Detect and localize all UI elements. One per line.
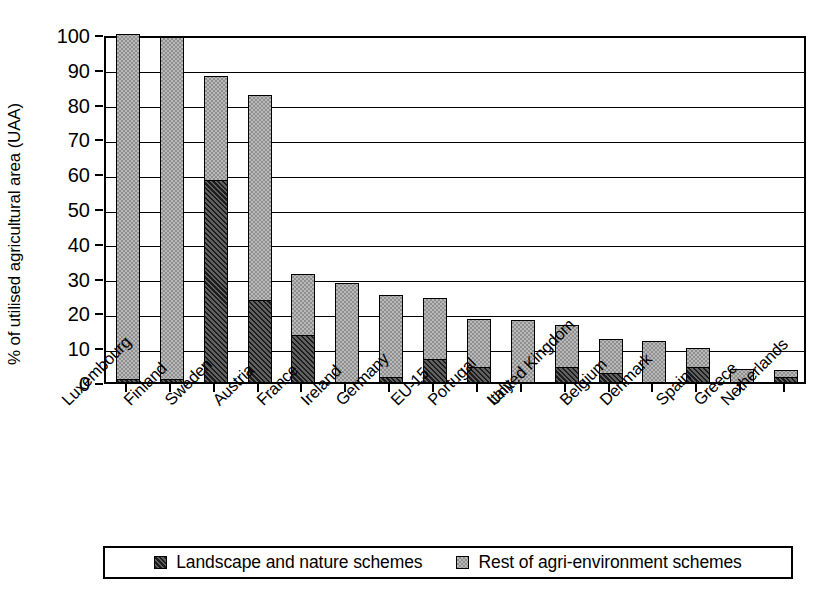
- bar-slot: [238, 38, 282, 382]
- y-axis-tick: [95, 105, 103, 107]
- plot-area: [104, 36, 806, 384]
- bar[interactable]: [335, 283, 359, 382]
- bar-slot: [325, 38, 369, 382]
- y-axis-tick-label: 90: [20, 61, 90, 81]
- bar-slot: [676, 38, 720, 382]
- x-axis-tick: [783, 384, 785, 392]
- legend-item[interactable]: Landscape and nature schemes: [154, 552, 422, 573]
- x-axis-tick: [651, 384, 653, 392]
- bar-segment-rest-of-agri-environment-schemes: [687, 348, 709, 367]
- y-axis-tick: [95, 35, 103, 37]
- y-axis-tick-label: 40: [20, 235, 90, 255]
- bar[interactable]: [423, 298, 447, 382]
- bar-slot: [369, 38, 413, 382]
- bar-segment-rest-of-agri-environment-schemes: [117, 34, 139, 379]
- bar-segment-rest-of-agri-environment-schemes: [424, 299, 446, 360]
- x-axis-tick: [388, 384, 390, 392]
- y-axis-tick-label: 10: [20, 339, 90, 359]
- y-axis-tick: [95, 174, 103, 176]
- legend-label: Landscape and nature schemes: [176, 552, 422, 573]
- y-axis-tick: [95, 279, 103, 281]
- bar-segment-rest-of-agri-environment-schemes: [336, 283, 358, 382]
- y-axis-tick: [95, 244, 103, 246]
- y-axis-tick-label: 70: [20, 130, 90, 150]
- bar[interactable]: [116, 34, 140, 382]
- y-axis-tick-label: 100: [20, 26, 90, 46]
- bar-slot: [720, 38, 764, 382]
- bar-slot: [282, 38, 326, 382]
- legend-item[interactable]: Rest of agri-environment schemes: [456, 552, 741, 573]
- bar[interactable]: [160, 37, 184, 382]
- dark-hatch-swatch: [154, 556, 167, 569]
- bar-segment-landscape-and-nature-schemes: [380, 377, 402, 382]
- bar-slot: [764, 38, 808, 382]
- bar-slot: [413, 38, 457, 382]
- legend-label: Rest of agri-environment schemes: [478, 552, 741, 573]
- x-axis-tick: [476, 384, 478, 392]
- y-axis-tick: [95, 139, 103, 141]
- y-axis-tick: [95, 313, 103, 315]
- bar-slot: [150, 38, 194, 382]
- y-axis-tick-label: 60: [20, 165, 90, 185]
- bar-slot: [106, 38, 150, 382]
- y-axis-tick-label: 80: [20, 96, 90, 116]
- bar-segment-rest-of-agri-environment-schemes: [292, 274, 314, 335]
- bar[interactable]: [291, 274, 315, 382]
- y-axis-tick-label: 30: [20, 270, 90, 290]
- y-axis-tick: [95, 209, 103, 211]
- light-check-swatch: [456, 556, 469, 569]
- bar-segment-rest-of-agri-environment-schemes: [775, 370, 797, 377]
- bar-slot: [589, 38, 633, 382]
- bar[interactable]: [774, 370, 798, 382]
- bar-slot: [457, 38, 501, 382]
- bar-series-group: [106, 38, 804, 382]
- chart-figure: % of utilised agricultural area (UAA) 01…: [0, 0, 838, 589]
- bar[interactable]: [248, 95, 272, 382]
- y-axis-tick: [95, 348, 103, 350]
- bar-segment-rest-of-agri-environment-schemes: [161, 38, 183, 379]
- y-axis-tick-label: 50: [20, 200, 90, 220]
- y-axis-tick: [95, 70, 103, 72]
- bar-slot: [501, 38, 545, 382]
- bar-segment-rest-of-agri-environment-schemes: [205, 76, 227, 180]
- bar[interactable]: [204, 76, 228, 382]
- bar-slot: [194, 38, 238, 382]
- chart-legend: Landscape and nature schemesRest of agri…: [103, 546, 793, 579]
- bar-segment-landscape-and-nature-schemes: [205, 180, 227, 382]
- bar-slot: [633, 38, 677, 382]
- y-axis-tick-label: 20: [20, 304, 90, 324]
- bar-segment-landscape-and-nature-schemes: [775, 377, 797, 382]
- bar-segment-rest-of-agri-environment-schemes: [249, 95, 271, 300]
